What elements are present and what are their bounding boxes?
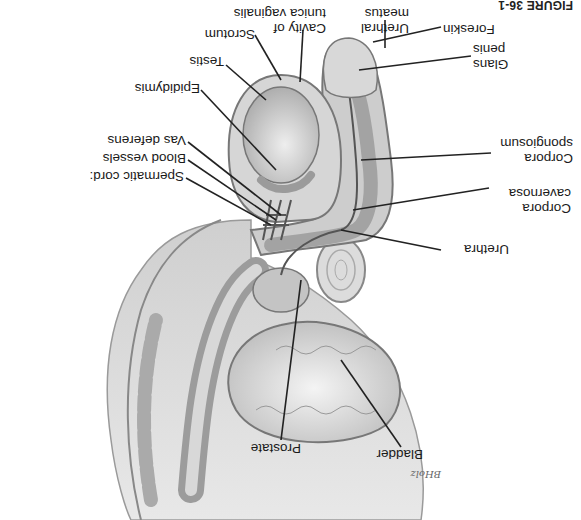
anatomy-figure: Urethral meatus Foreskin Glans penis Cor… — [0, 0, 581, 520]
illustrator-signature: BHolz — [410, 469, 441, 480]
label-line: Glans — [473, 57, 521, 72]
label-prostate: Prostate — [251, 441, 301, 456]
label-line: tunica vaginalis — [234, 6, 326, 21]
label-vas-deferens: Vas deferens — [107, 133, 186, 148]
glans — [323, 38, 377, 98]
label-line: Corpora — [509, 201, 571, 216]
label-corpora-spongiosum: Corpora spongiosum — [500, 136, 573, 166]
label-urethral-meatus: Urethral meatus — [361, 6, 409, 36]
label-line: Urethral — [361, 21, 409, 36]
bladder — [228, 322, 400, 442]
label-scrotum: Scrotum — [205, 27, 255, 42]
pubic-bone — [317, 238, 365, 302]
label-spermatic-cord: Spermatic cord: — [89, 169, 184, 184]
label-line: penis — [473, 42, 521, 57]
label-bladder: Bladder — [376, 447, 423, 462]
label-corpora-cavernosa: Corpora cavernosa — [509, 186, 571, 216]
label-urethra: Urethra — [464, 242, 509, 257]
figure-caption: FIGURE 36-1 — [498, 0, 573, 12]
label-line: cavernosa — [509, 186, 571, 201]
label-line: meatus — [361, 6, 409, 21]
testis — [243, 87, 319, 183]
label-epididymis: Epididymis — [135, 81, 200, 96]
caption-prefix: FIGURE 36-1 — [498, 0, 573, 12]
label-testis: Testis — [189, 54, 224, 69]
label-line: spongiosum — [500, 136, 573, 151]
label-foreskin: Foreskin — [443, 22, 509, 37]
label-blood-vessels: Blood vessels — [103, 151, 186, 166]
label-glans-penis: Glans penis — [473, 42, 521, 72]
label-line: Corpora — [500, 151, 573, 166]
